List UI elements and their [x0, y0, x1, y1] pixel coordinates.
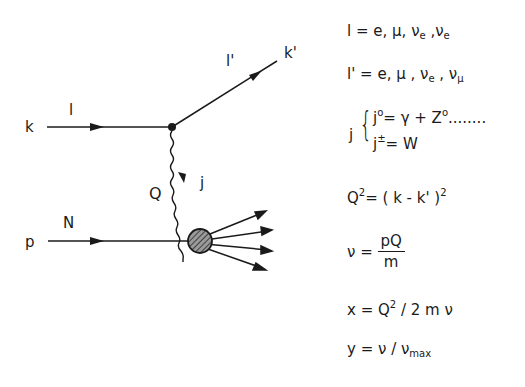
- arrow-right-icon: [90, 123, 104, 131]
- label-p: p: [25, 235, 35, 250]
- eq-x: x = Q2 / 2 m ν: [347, 300, 453, 318]
- label-l-prime: l': [226, 54, 234, 69]
- label-k-prime: k': [284, 46, 297, 61]
- eq-current-symbol: j: [349, 128, 353, 143]
- eq-charged-current: j±= W: [373, 134, 418, 152]
- boson-wavy-line: [171, 131, 187, 262]
- arrow-down-icon: [178, 172, 186, 183]
- label-Q: Q: [149, 186, 162, 202]
- eq-y: y = ν / νmax: [347, 342, 431, 359]
- vertex-dot: [168, 123, 176, 131]
- label-l: l: [69, 103, 73, 118]
- eq-lepton-out: l' = e, μ , νe , νμ: [347, 67, 464, 84]
- eq-q-squared: Q2= ( k - k' )2: [347, 188, 447, 206]
- incoming-nucleon-line: [48, 237, 190, 245]
- eq-neutral-current: jo= γ + Zo........: [373, 108, 486, 126]
- hadron-jets: [205, 211, 272, 270]
- label-j: j: [200, 176, 204, 191]
- hadronic-blob: [188, 229, 212, 253]
- arrow-right-icon: [90, 237, 104, 245]
- brace-icon: {: [359, 107, 372, 141]
- label-k: k: [25, 120, 34, 135]
- eq-lepton-in: l = e, μ, νe ,νe: [347, 24, 450, 41]
- fraction: pQ m: [378, 234, 405, 270]
- eq-nu: ν = pQ m: [347, 234, 405, 270]
- arrow-up-right-icon: [249, 71, 262, 82]
- incoming-lepton-line: [47, 123, 172, 131]
- outgoing-lepton-line: [172, 61, 277, 127]
- label-N: N: [63, 216, 74, 231]
